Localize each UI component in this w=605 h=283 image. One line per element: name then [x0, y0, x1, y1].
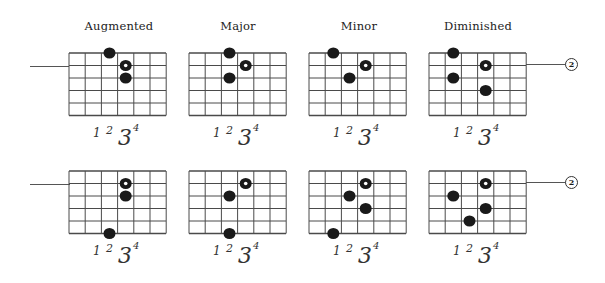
finger-number-1: 1 [453, 126, 461, 140]
finger-dot-icon [327, 47, 339, 58]
left-string-line-top [30, 66, 69, 67]
finger-dot-icon [344, 72, 356, 83]
fretboard-grid [189, 53, 296, 126]
finger-dot-icon [344, 190, 356, 201]
finger-number-2: 2 [106, 124, 113, 137]
string-number-marker-bottom: 2 [565, 176, 578, 189]
finger-number-4: 4 [373, 240, 379, 251]
title-minor: Minor [309, 19, 409, 33]
finger-number-1: 1 [453, 244, 461, 258]
finger-dot-icon [104, 228, 116, 239]
finger-number-4: 4 [253, 122, 259, 133]
finger-dot-icon [104, 47, 116, 58]
finger-numbers: 1234 [213, 124, 273, 154]
finger-number-3: 3 [238, 243, 252, 268]
finger-dot-icon [447, 47, 459, 58]
finger-number-2: 2 [466, 124, 473, 137]
finger-number-2: 2 [226, 242, 233, 255]
finger-number-3: 3 [118, 243, 132, 268]
finger-number-4: 4 [253, 240, 259, 251]
finger-dot-icon [224, 190, 236, 201]
fretboard-grid [69, 171, 176, 244]
title-diminished: Diminished [428, 19, 528, 33]
finger-number-3: 3 [118, 125, 132, 150]
finger-dot-icon [480, 85, 492, 96]
finger-dot-icon [447, 190, 459, 201]
finger-dot-icon [327, 228, 339, 239]
finger-number-2: 2 [106, 242, 113, 255]
fretboard-grid [309, 53, 416, 126]
finger-numbers: 1234 [333, 242, 393, 272]
fretboard-grid [69, 53, 176, 126]
title-major: Major [188, 19, 288, 33]
finger-dot-icon [224, 47, 236, 58]
fretboard-grid [429, 53, 536, 126]
finger-dot-icon [360, 203, 372, 214]
finger-number-4: 4 [373, 122, 379, 133]
finger-dot-icon [120, 72, 132, 83]
finger-numbers: 1234 [93, 124, 153, 154]
finger-numbers: 1234 [453, 242, 513, 272]
fretboard-grid [189, 171, 296, 244]
finger-number-1: 1 [213, 244, 221, 258]
finger-number-3: 3 [358, 125, 372, 150]
finger-number-3: 3 [478, 125, 492, 150]
finger-number-1: 1 [333, 126, 341, 140]
finger-number-1: 1 [93, 244, 101, 258]
finger-number-3: 3 [358, 243, 372, 268]
string-number-marker-top: 2 [565, 58, 578, 71]
finger-number-1: 1 [213, 126, 221, 140]
finger-dot-icon [224, 72, 236, 83]
finger-numbers: 1234 [93, 242, 153, 272]
finger-numbers: 1234 [213, 242, 273, 272]
finger-number-1: 1 [93, 126, 101, 140]
finger-dot-icon [120, 190, 132, 201]
finger-number-4: 4 [493, 122, 499, 133]
fretboard-grid [429, 171, 536, 244]
finger-number-4: 4 [493, 240, 499, 251]
finger-number-2: 2 [466, 242, 473, 255]
finger-number-1: 1 [333, 244, 341, 258]
finger-dot-icon [480, 203, 492, 214]
left-string-line-bottom [30, 184, 70, 185]
title-augmented: Augmented [69, 19, 169, 33]
finger-dot-icon [464, 215, 476, 226]
finger-number-4: 4 [133, 240, 139, 251]
finger-dot-icon [224, 228, 236, 239]
finger-number-2: 2 [346, 242, 353, 255]
finger-number-3: 3 [238, 125, 252, 150]
finger-numbers: 1234 [333, 124, 393, 154]
fretboard-grid [309, 171, 416, 244]
finger-numbers: 1234 [453, 124, 513, 154]
finger-number-4: 4 [133, 122, 139, 133]
finger-number-3: 3 [478, 243, 492, 268]
finger-dot-icon [447, 72, 459, 83]
finger-number-2: 2 [346, 124, 353, 137]
finger-number-2: 2 [226, 124, 233, 137]
